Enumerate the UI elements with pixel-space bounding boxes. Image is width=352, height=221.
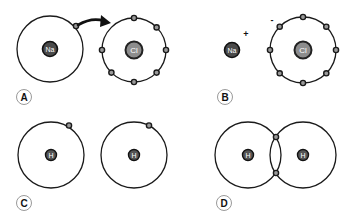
hydrogen-symbol: H [48, 152, 53, 159]
panel-label-c: C [17, 196, 32, 211]
hydrogen-atom-c1: H [18, 122, 84, 188]
hydrogen-electron [146, 123, 151, 128]
shared-electron-bottom [273, 170, 278, 175]
hydrogen-symbol-left: H [245, 152, 250, 159]
electron [333, 47, 338, 52]
electron [300, 14, 305, 19]
chloride-symbol: Cl [299, 46, 307, 55]
sodium-ion-symbol: Na [228, 47, 237, 54]
electron [324, 24, 329, 29]
electron [131, 15, 136, 20]
sodium-ion: Na + [225, 29, 249, 58]
chloride-charge: - [271, 15, 274, 25]
sodium-atom-a: Na [17, 16, 83, 82]
sodium-ion-charge: + [243, 29, 248, 39]
electron [277, 24, 282, 29]
electron [163, 47, 168, 52]
panel-label-text: D [220, 198, 227, 209]
electron [324, 71, 329, 76]
shared-electron-top [273, 134, 278, 139]
electron [277, 71, 282, 76]
panel-b: Na + Cl - B [218, 14, 339, 104]
hydrogen-molecule: H H [215, 122, 336, 188]
electron [99, 47, 104, 52]
electron [300, 80, 305, 85]
hydrogen-electron [66, 123, 71, 128]
electron [154, 70, 159, 75]
electron-transfer-arrow-icon [78, 15, 111, 27]
electron [267, 47, 272, 52]
sodium-symbol: Na [46, 46, 55, 53]
panel-c: H H C [17, 122, 168, 211]
panel-label-d: D [217, 196, 232, 211]
panel-label-text: B [221, 92, 228, 103]
bonding-diagram: Na Cl A [0, 0, 352, 221]
panel-label-text: A [20, 92, 27, 103]
panel-label-b: B [218, 90, 233, 105]
panel-label-a: A [17, 90, 32, 105]
hydrogen-symbol-right: H [300, 152, 305, 159]
chloride-ion: Cl - [267, 14, 338, 85]
hydrogen-symbol: H [131, 152, 136, 159]
electron [109, 70, 114, 75]
panel-a: Na Cl A [17, 15, 169, 105]
chlorine-atom-a: Cl [99, 15, 168, 84]
hydrogen-atom-c2: H [101, 122, 167, 188]
electron [154, 25, 159, 30]
electron [131, 79, 136, 84]
panel-label-text: C [20, 198, 27, 209]
panel-d: H H D [215, 122, 336, 211]
chlorine-symbol: Cl [130, 46, 138, 55]
